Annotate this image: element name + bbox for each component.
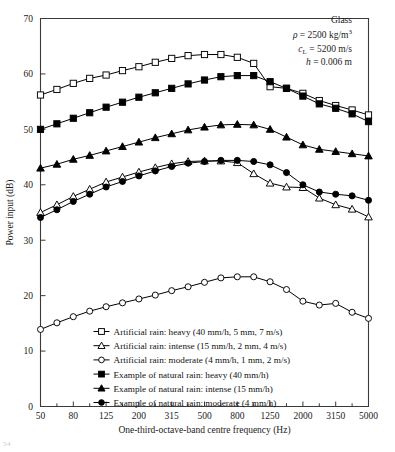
- marker-filled-triangle: [283, 133, 291, 140]
- annotation-material: Glass: [331, 15, 352, 25]
- power-input-line-chart: 010203040506070Power input (dB)508012520…: [0, 0, 395, 452]
- marker-open-circle: [251, 274, 257, 280]
- legend-label: Artificial rain: moderate (4 mm/h, 1 mm,…: [114, 355, 291, 365]
- marker-open-square: [201, 51, 207, 57]
- marker-filled-circle: [201, 158, 207, 164]
- marker-open-circle: [54, 320, 60, 326]
- marker-filled-circle: [283, 170, 289, 176]
- x-tick-label: 3150: [326, 411, 345, 421]
- marker-filled-circle: [70, 198, 76, 204]
- marker-open-circle: [169, 288, 175, 294]
- marker-open-square: [169, 55, 175, 61]
- marker-filled-circle: [103, 184, 109, 190]
- legend-item[interactable]: Artificial rain: intense (15 mm/h, 2 mm,…: [94, 341, 287, 351]
- marker-open-square: [37, 92, 43, 98]
- annotation-density: ρ = 2500 kg/m3: [292, 28, 353, 40]
- marker-filled-square: [169, 85, 175, 91]
- marker-filled-circle: [99, 400, 105, 406]
- series-2: [37, 274, 371, 333]
- y-axis-title: Power input (dB): [5, 180, 16, 246]
- marker-filled-square: [234, 72, 240, 78]
- marker-open-circle: [316, 302, 322, 308]
- legend-item[interactable]: Example of natural rain: intense (15 mm/…: [94, 384, 273, 394]
- legend-label: Artificial rain: heavy (40 mm/h, 5 mm, 7…: [114, 327, 283, 337]
- marker-filled-circle: [119, 178, 125, 184]
- marker-open-circle: [99, 357, 105, 363]
- marker-open-triangle: [250, 170, 258, 177]
- marker-filled-square: [349, 111, 355, 117]
- marker-filled-circle: [218, 157, 224, 163]
- marker-open-square: [218, 51, 224, 57]
- legend: Artificial rain: heavy (40 mm/h, 5 mm, 7…: [94, 327, 291, 408]
- marker-filled-square: [87, 110, 93, 116]
- marker-open-circle: [136, 296, 142, 302]
- marker-open-square: [99, 329, 105, 335]
- marker-filled-circle: [234, 157, 240, 163]
- marker-open-circle: [201, 279, 207, 285]
- marker-open-triangle: [365, 213, 373, 220]
- marker-filled-circle: [87, 191, 93, 197]
- marker-open-circle: [185, 284, 191, 290]
- marker-filled-square: [54, 121, 60, 127]
- marker-open-circle: [267, 279, 273, 285]
- marker-filled-circle: [136, 173, 142, 179]
- annotation-thickness: h = 0.006 m: [306, 57, 353, 67]
- marker-open-square: [185, 53, 191, 59]
- y-tick-label: 50: [24, 125, 34, 135]
- y-tick-label: 30: [24, 236, 34, 246]
- material-annotation: Glassρ = 2500 kg/m3cL = 5200 m/sh = 0.00…: [292, 15, 353, 67]
- marker-open-circle: [234, 274, 240, 280]
- marker-open-square: [54, 86, 60, 92]
- marker-filled-square: [218, 74, 224, 80]
- marker-open-square: [365, 112, 371, 118]
- annotation-longitudinal-speed: cL = 5200 m/s: [298, 44, 352, 57]
- marker-filled-triangle: [234, 121, 242, 128]
- x-tick-label: 500: [197, 411, 212, 421]
- x-tick-label: 200: [132, 411, 147, 421]
- legend-item[interactable]: Artificial rain: heavy (40 mm/h, 5 mm, 7…: [94, 327, 283, 337]
- x-tick-label: 80: [69, 411, 79, 421]
- marker-open-circle: [218, 275, 224, 281]
- legend-item[interactable]: Example of natural rain: heavy (40 mm/h): [94, 370, 269, 380]
- marker-filled-circle: [251, 158, 257, 164]
- marker-filled-circle: [300, 182, 306, 188]
- marker-open-square: [103, 72, 109, 78]
- x-tick-label: 2000: [293, 411, 312, 421]
- page-number: 54: [3, 440, 11, 448]
- marker-filled-square: [103, 104, 109, 110]
- marker-filled-square: [333, 105, 339, 111]
- y-tick-label: 60: [24, 69, 34, 79]
- marker-filled-circle: [316, 189, 322, 195]
- marker-open-circle: [103, 304, 109, 310]
- legend-item[interactable]: Example of natural rain: moderate (4 mm/…: [94, 398, 277, 408]
- marker-filled-circle: [185, 160, 191, 166]
- legend-item[interactable]: Artificial rain: moderate (4 mm/h, 1 mm,…: [94, 355, 291, 365]
- marker-open-square: [87, 75, 93, 81]
- x-tick-label: 1250: [261, 411, 280, 421]
- marker-filled-square: [283, 85, 289, 91]
- marker-open-circle: [152, 292, 158, 298]
- x-tick-label: 5000: [359, 411, 378, 421]
- marker-filled-circle: [267, 162, 273, 168]
- marker-filled-square: [316, 101, 322, 107]
- x-axis-title: One-third-octave-band centre frequency (…: [118, 425, 290, 436]
- marker-open-triangle: [266, 179, 274, 186]
- y-tick-label: 0: [28, 402, 33, 412]
- marker-filled-square: [185, 81, 191, 87]
- marker-filled-square: [152, 90, 158, 96]
- marker-filled-square: [119, 99, 125, 105]
- marker-filled-circle: [365, 197, 371, 203]
- marker-open-triangle: [332, 201, 340, 208]
- marker-open-circle: [365, 315, 371, 321]
- marker-filled-square: [37, 126, 43, 132]
- marker-open-square: [234, 54, 240, 60]
- marker-open-square: [152, 59, 158, 65]
- marker-filled-square: [365, 118, 371, 124]
- marker-filled-square: [99, 371, 105, 377]
- y-tick-label: 20: [24, 291, 34, 301]
- legend-label: Example of natural rain: heavy (40 mm/h): [114, 370, 269, 380]
- marker-open-square: [136, 64, 142, 70]
- marker-filled-square: [300, 93, 306, 99]
- marker-filled-square: [70, 115, 76, 121]
- marker-filled-square: [136, 94, 142, 100]
